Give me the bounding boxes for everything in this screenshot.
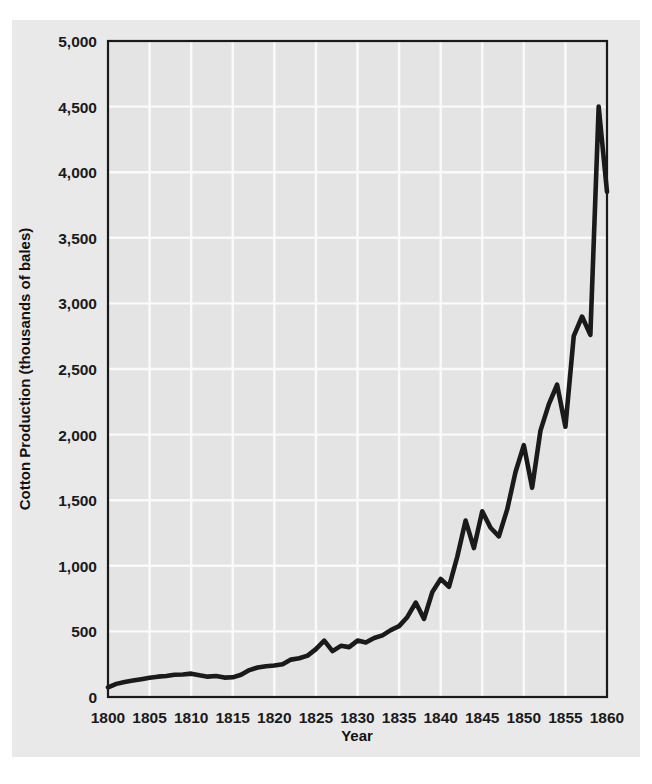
x-tick-label: 1855 [548, 709, 583, 726]
x-tick-label: 1840 [423, 709, 457, 726]
y-tick-label: 1,000 [58, 558, 97, 575]
x-tick-label: 1850 [507, 709, 541, 726]
y-tick-label: 3,500 [58, 230, 97, 247]
y-tick-label: 3,000 [58, 295, 97, 312]
x-tick-label: 1845 [465, 709, 500, 726]
y-tick-label: 4,500 [58, 99, 97, 116]
x-tick-label: 1820 [257, 709, 291, 726]
x-tick-label: 1835 [382, 709, 417, 726]
x-tick-label: 1810 [174, 709, 208, 726]
x-tick-label: 1800 [91, 709, 125, 726]
y-tick-label: 1,500 [58, 492, 97, 509]
y-tick-label: 5,000 [58, 33, 97, 50]
x-tick-label: 1860 [590, 709, 624, 726]
line-chart-svg: 05001,0001,5002,0002,5003,0003,5004,0004… [0, 0, 652, 784]
x-tick-label: 1825 [299, 709, 334, 726]
x-tick-label: 1815 [216, 709, 251, 726]
x-axis-title: Year [341, 727, 373, 744]
x-tick-label: 1830 [340, 709, 374, 726]
y-tick-label: 0 [88, 689, 97, 706]
x-tick-label: 1805 [132, 709, 167, 726]
y-axis-tick-labels: 05001,0001,5002,0002,5003,0003,5004,0004… [58, 33, 97, 706]
y-tick-label: 4,000 [58, 164, 97, 181]
y-tick-label: 500 [71, 623, 97, 640]
y-tick-label: 2,000 [58, 427, 97, 444]
chart-plot-wrapper: 05001,0001,5002,0002,5003,0003,5004,0004… [0, 0, 652, 784]
x-axis-tick-labels: 1800180518101815182018251830183518401845… [91, 709, 624, 726]
y-tick-label: 2,500 [58, 361, 97, 378]
y-axis-title: Cotton Production (thousands of bales) [16, 228, 33, 510]
chart-figure: 05001,0001,5002,0002,5003,0003,5004,0004… [0, 0, 652, 784]
